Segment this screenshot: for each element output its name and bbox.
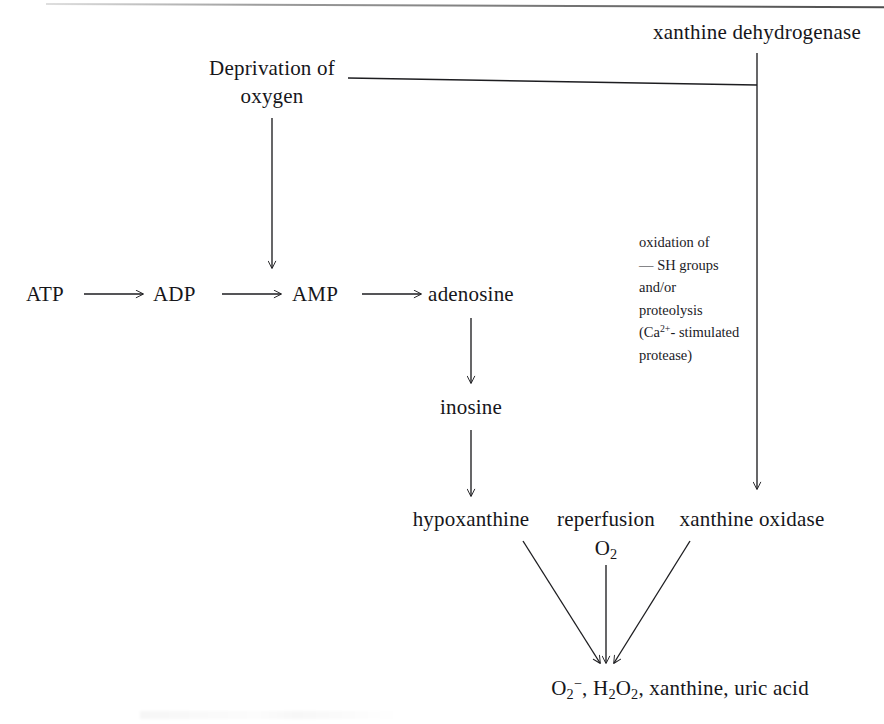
deprivation-line-2: oxygen [209, 83, 335, 111]
annotation-xanthine-conversion: oxidation of — SH groups and/or proteoly… [639, 231, 739, 367]
node-xanthine-dehydrogenase: xanthine dehydrogenase [653, 20, 861, 46]
node-reperfusion: reperfusion [557, 507, 655, 533]
arrow-oxidase-to-products [614, 541, 690, 663]
calcium-prefix: (Ca [639, 324, 660, 340]
page-top-rule [46, 3, 884, 8]
annotation-sh-groups: SH groups [657, 257, 719, 273]
calcium-charge: 2+ [660, 323, 670, 334]
product-hydrogen-peroxide: H2O2 [593, 676, 638, 700]
diagram-canvas: ATP ADP AMP adenosine inosine hypoxanthi… [0, 0, 884, 724]
deprivation-line-1: Deprivation of [209, 55, 335, 83]
product-separator-1: , [582, 676, 593, 700]
scan-artifact [140, 711, 400, 719]
annotation-line-2: — SH groups [639, 254, 739, 277]
calcium-suffix: - stimulated [670, 324, 739, 340]
annotation-line-1: oxidation of [639, 231, 739, 254]
node-products: O2−, H2O2, xanthine, uric acid [551, 676, 809, 702]
product-separator-3: , [723, 676, 734, 700]
node-adp: ADP [153, 282, 196, 308]
node-adenosine: adenosine [428, 282, 514, 308]
annotation-line-5: (Ca2+- stimulated [639, 321, 739, 344]
oxygen-symbol: O [595, 536, 610, 560]
node-hypoxanthine: hypoxanthine [413, 507, 530, 533]
product-xanthine: xanthine [649, 676, 723, 700]
arrow-hypoxanthine-to-products [523, 541, 600, 663]
product-superoxide: O2− [551, 676, 582, 700]
node-deprivation-of-oxygen: Deprivation of oxygen [209, 55, 335, 110]
annotation-dash: — [639, 257, 654, 273]
annotation-line-6: protease) [639, 344, 739, 367]
node-atp: ATP [26, 282, 64, 308]
node-amp: AMP [292, 282, 338, 308]
node-xanthine-oxidase: xanthine oxidase [680, 507, 825, 533]
product-uric-acid: uric acid [734, 676, 809, 700]
connector-lines [0, 0, 884, 724]
product-separator-2: , [638, 676, 649, 700]
connector-deprivation-to-dehydrogenase [348, 78, 757, 85]
node-reperfusion-oxygen: O2 [595, 536, 618, 562]
node-inosine: inosine [440, 395, 502, 421]
annotation-line-3: and/or [639, 276, 739, 299]
oxygen-subscript: 2 [610, 546, 617, 562]
annotation-line-4: proteolysis [639, 299, 739, 322]
